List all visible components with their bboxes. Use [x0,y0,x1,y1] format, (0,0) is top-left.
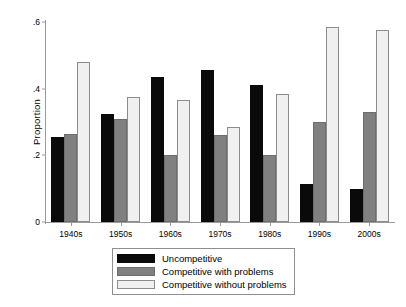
bar-group: 1950s [96,22,146,222]
bar [101,114,114,222]
bar-group: 1990s [295,22,345,222]
x-tick-label: 1960s [159,229,182,239]
y-axis-line [45,20,46,224]
x-tick-label: 2000s [358,229,381,239]
y-axis-label: Proportion [31,99,42,145]
legend-label: Competitive without problems [162,280,287,290]
bar [127,97,140,222]
bar [276,94,289,222]
legend-swatch [117,254,155,263]
chart-legend: UncompetitiveCompetitive with problemsCo… [112,248,295,295]
bar [227,127,240,222]
legend-item: Uncompetitive [117,252,287,265]
bar [64,134,77,222]
bar [164,155,177,222]
bar [300,184,313,222]
bar [177,100,190,222]
legend-swatch [117,267,155,276]
legend-item: Competitive with problems [117,265,287,278]
bar-group: 1940s [46,22,96,222]
x-axis-line [45,222,395,223]
x-tick-label: 1950s [109,229,132,239]
bar-groups: 1940s1950s1960s1970s1980s1990s2000s [46,22,394,222]
bar-group: 1970s [195,22,245,222]
bar [250,85,263,222]
bar [214,135,227,222]
bar [263,155,276,222]
bar [326,27,339,222]
x-tick-label: 1970s [208,229,231,239]
bar [151,77,164,222]
y-tick-label: .6 [6,18,46,27]
bar [313,122,326,222]
bar [363,112,376,222]
legend-item: Competitive without problems [117,278,287,291]
bar [201,70,214,222]
legend-label: Uncompetitive [162,254,222,264]
legend-label: Competitive with problems [162,267,273,277]
bar [114,119,127,222]
bar-group: 1980s [245,22,295,222]
legend-swatch [117,280,155,289]
bar-group: 1960s [145,22,195,222]
bar [51,137,64,222]
y-tick-label: .4 [6,84,46,93]
bar [77,62,90,222]
x-tick-label: 1980s [258,229,281,239]
bar [350,189,363,222]
bar-group: 2000s [344,22,394,222]
plot-area: Proportion 0.2.4.6 1940s1950s1960s1970s1… [46,22,394,222]
y-tick-label: .2 [6,151,46,160]
bar-chart-figure: Proportion 0.2.4.6 1940s1950s1960s1970s1… [0,0,406,307]
x-tick-label: 1990s [308,229,331,239]
bar [376,30,389,222]
y-tick-label: 0 [6,218,46,227]
x-tick-label: 1940s [59,229,82,239]
